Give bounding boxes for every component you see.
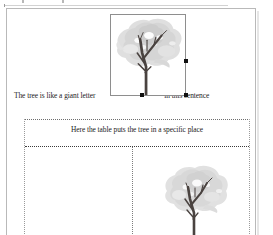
tree-illustration-icon xyxy=(157,161,233,235)
document-window: The tree is like a giant letterin this s… xyxy=(0,0,273,235)
table-cell-right[interactable] xyxy=(133,147,251,235)
ruler-strip[interactable] xyxy=(0,0,273,7)
resize-handle-bottom-right[interactable] xyxy=(184,93,188,97)
ruler-tick xyxy=(62,0,64,3)
page-shadow xyxy=(257,11,259,235)
selected-tree-picture[interactable] xyxy=(110,14,186,96)
table-caption-text: Here the table puts the tree in a specif… xyxy=(25,125,249,134)
paragraph-text-before: The tree is like a giant letter xyxy=(14,91,95,100)
resize-handle-right[interactable] xyxy=(184,59,188,63)
document-table[interactable]: Here the table puts the tree in a specif… xyxy=(24,119,250,235)
table-caption-row[interactable]: Here the table puts the tree in a specif… xyxy=(25,120,249,147)
tree-illustration-icon xyxy=(111,15,185,95)
table-row xyxy=(25,147,249,235)
document-page[interactable]: The tree is like a giant letterin this s… xyxy=(6,8,256,235)
table-cell-left[interactable] xyxy=(25,147,133,235)
ruler-tick xyxy=(22,0,24,3)
ruler-indent-marker[interactable] xyxy=(4,4,5,7)
resize-handle-bottom[interactable] xyxy=(140,93,144,97)
ruler-line xyxy=(4,5,228,6)
tree-picture-in-table[interactable] xyxy=(157,161,233,235)
